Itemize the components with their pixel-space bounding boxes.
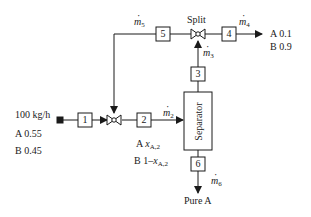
flow-label-m3: m3 (203, 48, 214, 61)
mixer-valve-icon (107, 115, 121, 125)
stream-box-1: 1 (78, 113, 92, 127)
stream-box-3: 3 (191, 67, 205, 81)
separator-unit: Separator (184, 92, 212, 150)
split-label: Split (187, 15, 206, 25)
feed-source-icon (57, 117, 63, 123)
stream-box-6: 6 (191, 157, 205, 171)
product4-comp-b: B 0.9 (270, 42, 292, 52)
stream2-comp-a: A xA,2 (136, 139, 160, 152)
product4-comp-a: A 0.1 (270, 29, 292, 39)
feed-comp-a: A 0.55 (15, 129, 42, 139)
feed-flow-label: 100 kg/h (15, 110, 50, 120)
stream-box-5: 5 (156, 27, 170, 41)
flow-label-m4: m4 (239, 17, 250, 30)
stream-box-4: 4 (222, 27, 236, 41)
stream-box-2: 2 (137, 113, 151, 127)
flow-label-m6: m6 (211, 176, 222, 189)
flow-label-m5: m5 (134, 17, 145, 30)
feed-comp-b: B 0.45 (15, 146, 42, 156)
split-valve-icon (191, 29, 205, 39)
separator-label: Separator (193, 102, 204, 140)
stream2-comp-b: B 1–xA,2 (134, 156, 168, 169)
flow-label-m2: m2 (163, 108, 174, 121)
product6-label: Pure A (184, 196, 212, 206)
